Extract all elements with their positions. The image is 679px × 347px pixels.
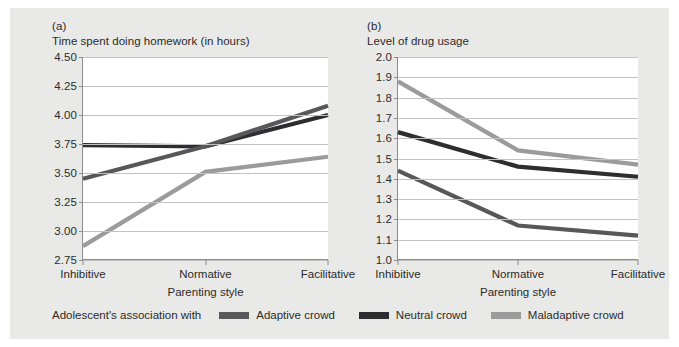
panel-b-xaxis-title: Parenting style (480, 286, 556, 298)
y-axis-tick-mark (394, 57, 398, 58)
series-line (398, 171, 638, 236)
legend-intro-label: Adolescent's association with (52, 309, 201, 321)
x-axis-tick-mark (328, 260, 329, 265)
y-axis-tick-mark (79, 231, 83, 232)
gridline (83, 144, 328, 145)
y-axis-tick-label: 2.0 (376, 51, 392, 63)
chart-legend: Adolescent's association with Adaptive c… (10, 300, 669, 330)
x-axis-tick-label: Inhibitive (60, 268, 105, 280)
y-axis-tick-label: 1.9 (376, 71, 392, 83)
y-axis-tick-mark (79, 86, 83, 87)
gridline (83, 173, 328, 174)
panel-b-title: Level of drug usage (367, 35, 469, 47)
y-axis-tick-label: 1.7 (376, 112, 392, 124)
plot-area-b: Parenting style 1.01.11.21.31.41.51.61.7… (397, 57, 638, 260)
x-axis-tick-mark (398, 260, 399, 265)
x-axis-tick-label: Inhibitive (375, 268, 420, 280)
y-axis-tick-mark (394, 199, 398, 200)
gridline (398, 179, 638, 180)
gridline (398, 159, 638, 160)
legend-entry-maladaptive: Maladaptive crowd (491, 309, 624, 321)
y-axis-tick-label: 3.50 (54, 167, 77, 179)
gridline (398, 138, 638, 139)
legend-entry-neutral: Neutral crowd (359, 309, 467, 321)
legend-label-adaptive: Adaptive crowd (256, 309, 335, 321)
panel-a-letter: (a) (52, 20, 66, 32)
y-axis-tick-mark (79, 202, 83, 203)
gridline (83, 202, 328, 203)
y-axis-tick-mark (394, 77, 398, 78)
series-lines-a (83, 57, 328, 260)
y-axis-tick-label: 3.75 (54, 138, 77, 150)
y-axis-tick-label: 1.4 (376, 173, 392, 185)
y-axis-tick-label: 4.25 (54, 80, 77, 92)
legend-swatch-neutral (359, 312, 389, 319)
legend-swatch-adaptive (219, 312, 249, 319)
x-axis-tick-mark (518, 260, 519, 265)
y-axis-tick-mark (394, 98, 398, 99)
gridline (398, 240, 638, 241)
y-axis-tick-mark (79, 173, 83, 174)
gridline (398, 98, 638, 99)
x-axis-tick-label: Normative (492, 268, 544, 280)
x-axis-tick-label: Facilitative (611, 268, 665, 280)
chart-panel-a: (a) Time spent doing homework (in hours)… (25, 8, 355, 298)
y-axis-tick-mark (79, 115, 83, 116)
legend-label-maladaptive: Maladaptive crowd (528, 309, 624, 321)
y-axis-tick-mark (79, 144, 83, 145)
series-line (398, 81, 638, 164)
y-axis-tick-label: 1.6 (376, 132, 392, 144)
y-axis-tick-mark (79, 57, 83, 58)
panel-a-title: Time spent doing homework (in hours) (52, 35, 250, 47)
y-axis-tick-label: 4.00 (54, 109, 77, 121)
plot-area-a: Parenting style 2.753.003.253.503.754.00… (82, 57, 328, 260)
gridline (83, 86, 328, 87)
gridline (398, 219, 638, 220)
y-axis-tick-label: 1.8 (376, 92, 392, 104)
gridline (83, 57, 328, 58)
y-axis-tick-label: 1.0 (376, 254, 392, 266)
gridline (83, 231, 328, 232)
y-axis-tick-mark (394, 240, 398, 241)
legend-swatch-maladaptive (491, 312, 521, 319)
x-axis-tick-label: Normative (179, 268, 231, 280)
gridline (398, 199, 638, 200)
y-axis-tick-label: 1.5 (376, 153, 392, 165)
gridline (398, 118, 638, 119)
figure-container: (a) Time spent doing homework (in hours)… (10, 8, 669, 339)
y-axis-tick-mark (394, 138, 398, 139)
x-axis-tick-mark (83, 260, 84, 265)
y-axis-tick-label: 1.1 (376, 234, 392, 246)
y-axis-tick-label: 2.75 (54, 254, 77, 266)
legend-entry-adaptive: Adaptive crowd (219, 309, 335, 321)
panel-a-xaxis-title: Parenting style (167, 286, 243, 298)
y-axis-tick-mark (394, 179, 398, 180)
panel-b-letter: (b) (367, 20, 381, 32)
gridline (398, 57, 638, 58)
y-axis-tick-label: 3.25 (54, 196, 77, 208)
y-axis-tick-label: 1.3 (376, 193, 392, 205)
y-axis-tick-mark (394, 159, 398, 160)
y-axis-tick-label: 3.00 (54, 225, 77, 237)
y-axis-tick-label: 4.50 (54, 51, 77, 63)
legend-label-neutral: Neutral crowd (396, 309, 467, 321)
y-axis-tick-label: 1.2 (376, 213, 392, 225)
gridline (398, 77, 638, 78)
chart-panel-b: (b) Level of drug usage Parenting style … (340, 8, 670, 298)
y-axis-tick-mark (394, 219, 398, 220)
y-axis-tick-mark (394, 118, 398, 119)
x-axis-tick-mark (205, 260, 206, 265)
gridline (83, 115, 328, 116)
series-line (83, 106, 328, 179)
x-axis-tick-mark (638, 260, 639, 265)
